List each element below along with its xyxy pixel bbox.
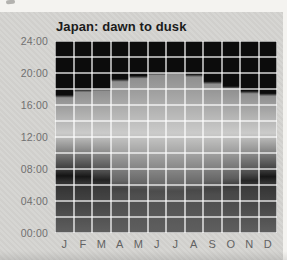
x-axis-month-label: J — [166, 238, 185, 250]
x-axis-month-label: J — [55, 238, 74, 250]
gridline-vertical — [276, 41, 277, 233]
gridline-vertical — [165, 41, 167, 233]
gridline-vertical — [147, 41, 149, 233]
gridline-vertical — [55, 41, 56, 233]
gridline-vertical — [128, 41, 130, 233]
x-axis-month-label: M — [129, 238, 148, 250]
x-axis-month-label: N — [240, 238, 259, 250]
y-axis-tick-label: 24:00 — [0, 36, 48, 47]
gridline-vertical — [110, 41, 112, 233]
x-axis-month-label: O — [221, 238, 240, 250]
x-axis-month-label: D — [258, 238, 277, 250]
x-axis-month-label: J — [147, 238, 166, 250]
y-axis-tick-label: 08:00 — [0, 164, 48, 175]
x-axis-month-label: M — [92, 238, 111, 250]
gridline-vertical — [258, 41, 260, 233]
x-axis-month-label: A — [184, 238, 203, 250]
gridline-vertical — [184, 41, 186, 233]
chart-title: Japan: dawn to dusk — [56, 19, 186, 34]
scanned-page: Japan: dawn to dusk 24:0020:0016:0012:00… — [0, 0, 287, 260]
x-axis-month-label: A — [110, 238, 129, 250]
gridline-vertical — [239, 41, 241, 233]
page-corner-mark — [6, 0, 15, 4]
x-axis-month-label: F — [73, 238, 92, 250]
y-axis-tick-label: 12:00 — [0, 132, 48, 143]
y-axis-tick-label: 20:00 — [0, 68, 48, 79]
gridline-vertical — [221, 41, 223, 233]
y-axis-tick-label: 00:00 — [0, 228, 48, 239]
y-axis-tick-label: 04:00 — [0, 196, 48, 207]
page-bottom-edge-shade — [0, 251, 287, 260]
gridline-vertical — [73, 41, 75, 233]
plot-area — [55, 41, 277, 233]
gridline-vertical — [91, 41, 93, 233]
gridline-vertical — [202, 41, 204, 233]
x-axis-month-label: S — [203, 238, 222, 250]
y-axis-tick-label: 16:00 — [0, 100, 48, 111]
